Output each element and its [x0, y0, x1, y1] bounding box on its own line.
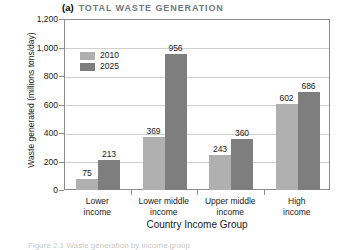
y-tick-label: 1,000	[18, 43, 58, 53]
bar-2010[interactable]	[143, 137, 165, 190]
chart-title-text: TOTAL WASTE GENERATION	[79, 3, 224, 13]
y-tick-label: 0	[18, 185, 58, 195]
x-axis-title: Country Income Group	[64, 219, 330, 230]
legend-item-2010[interactable]: 2010	[80, 51, 119, 60]
x-category-line: income	[254, 207, 340, 218]
bar-value-label: 602	[279, 93, 293, 103]
bar-group: 243360	[197, 19, 264, 190]
bar-2010[interactable]	[276, 104, 298, 190]
legend-item-2025[interactable]: 2025	[80, 62, 119, 71]
y-tick-label: 1,200	[18, 14, 58, 24]
bar-2025[interactable]	[98, 160, 120, 190]
bar-group: 75213	[64, 19, 131, 190]
legend-swatch-2025	[80, 63, 95, 71]
bar-2010[interactable]	[209, 155, 231, 190]
y-tick-label: 400	[18, 128, 58, 138]
legend-swatch-2010	[80, 52, 95, 60]
bar-2025[interactable]	[165, 54, 187, 190]
y-tick-label: 800	[18, 71, 58, 81]
x-tick-mark	[131, 190, 132, 195]
bar-group: 602686	[264, 19, 331, 190]
bar-value-label: 369	[146, 126, 160, 136]
bar-value-label: 243	[213, 144, 227, 154]
y-tick-label: 600	[18, 100, 58, 110]
bar-2025[interactable]	[298, 92, 320, 190]
bar-value-label: 686	[301, 81, 315, 91]
x-tick-mark	[197, 190, 198, 195]
legend-label: 2010	[100, 51, 119, 60]
bar-2010[interactable]	[76, 179, 98, 190]
x-category-label: Highincome	[254, 196, 340, 217]
bars-layer: 75213369956243360602686	[64, 19, 330, 190]
legend-label: 2025	[100, 62, 119, 71]
bar-value-label: 75	[82, 168, 91, 178]
y-tick-mark	[59, 190, 64, 191]
chart-title: (a) TOTAL WASTE GENERATION	[62, 0, 224, 15]
chart-legend: 20102025	[80, 51, 119, 71]
x-category-line: High	[254, 196, 340, 207]
y-tick-label: 200	[18, 157, 58, 167]
bar-2025[interactable]	[231, 139, 253, 190]
x-tick-mark	[264, 190, 265, 195]
bar-group: 369956	[131, 19, 198, 190]
bar-value-label: 213	[102, 149, 116, 159]
panel-letter: (a)	[62, 2, 74, 13]
bar-value-label: 956	[168, 43, 182, 53]
clipped-caption: Figure 2.1 Waste generation by income gr…	[28, 241, 190, 250]
bar-value-label: 360	[235, 128, 249, 138]
